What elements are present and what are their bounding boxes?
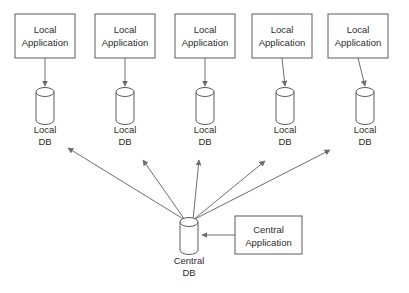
central-db-cylinder-top <box>180 218 198 227</box>
arrow-central-db-to-local-db-1 <box>68 148 185 220</box>
local-db-label-line2-4: DB <box>278 136 291 147</box>
local-db-label-line1-3: Local <box>194 124 217 135</box>
local-application-label-line2-1: Application <box>22 37 68 48</box>
local-db-label-line1-2: Local <box>114 124 137 135</box>
arrow-central-db-to-local-db-5 <box>193 150 330 220</box>
local-db-label-line1-5: Local <box>354 124 377 135</box>
local-application-label-line2-3: Application <box>182 37 228 48</box>
local-application-label-line2-2: Application <box>102 37 148 48</box>
local-application-label-line2-5: Application <box>335 37 381 48</box>
local-node-1: LocalApplicationLocalDB <box>15 14 75 147</box>
central-to-local-arrow-group <box>68 148 330 220</box>
local-db-cylinder-2-top <box>116 88 134 97</box>
arrow-central-db-to-local-db-2 <box>143 160 185 220</box>
local-node-5: LocalApplicationLocalDB <box>328 14 388 147</box>
local-db-label-line1-4: Local <box>274 124 297 135</box>
central-application-box[interactable] <box>235 216 302 254</box>
local-node-4: LocalApplicationLocalDB <box>252 14 312 147</box>
local-db-cylinder-5-top <box>356 88 374 97</box>
central-db-label-line1: Central <box>174 255 205 266</box>
local-db-label-line2-3: DB <box>198 136 211 147</box>
local-application-label-line2-4: Application <box>259 37 305 48</box>
central-db-label-line2: DB <box>182 267 195 278</box>
local-db-cylinder-1-top <box>36 88 54 97</box>
diagram-canvas: LocalApplicationLocalDBLocalApplicationL… <box>0 0 409 293</box>
central-node-group: CentralDBCentralApplication <box>174 216 302 278</box>
arrow-central-db-to-local-db-3 <box>193 160 199 220</box>
local-db-label-line2-5: DB <box>358 136 371 147</box>
local-application-label-line1-5: Local <box>347 24 370 35</box>
local-db-cylinder-4-top <box>276 88 294 97</box>
local-node-3: LocalApplicationLocalDB <box>175 14 235 147</box>
local-application-label-line1-4: Local <box>271 24 294 35</box>
central-application-label-line1: Central <box>253 224 284 235</box>
local-db-cylinder-2 <box>116 88 134 125</box>
local-application-label-line1-1: Local <box>34 24 57 35</box>
local-db-cylinder-3-top <box>196 88 214 97</box>
local-db-label-line2-1: DB <box>38 136 51 147</box>
central-db-cylinder <box>180 218 198 255</box>
central-application-label-line2: Application <box>245 237 291 248</box>
local-application-label-line1-2: Local <box>114 24 137 35</box>
local-db-label-line1-1: Local <box>34 124 57 135</box>
arrow-local-application-to-local-db-4 <box>282 58 285 86</box>
local-db-cylinder-5 <box>356 88 374 125</box>
arrow-central-db-to-local-db-4 <box>193 161 265 220</box>
local-db-label-line2-2: DB <box>118 136 131 147</box>
diagram-svg: LocalApplicationLocalDBLocalApplicationL… <box>0 0 409 293</box>
arrow-local-application-to-local-db-5 <box>358 58 365 86</box>
local-node-group: LocalApplicationLocalDBLocalApplicationL… <box>15 14 388 147</box>
local-db-cylinder-4 <box>276 88 294 125</box>
local-node-2: LocalApplicationLocalDB <box>95 14 155 147</box>
local-db-cylinder-3 <box>196 88 214 125</box>
local-db-cylinder-1 <box>36 88 54 125</box>
local-application-label-line1-3: Local <box>194 24 217 35</box>
